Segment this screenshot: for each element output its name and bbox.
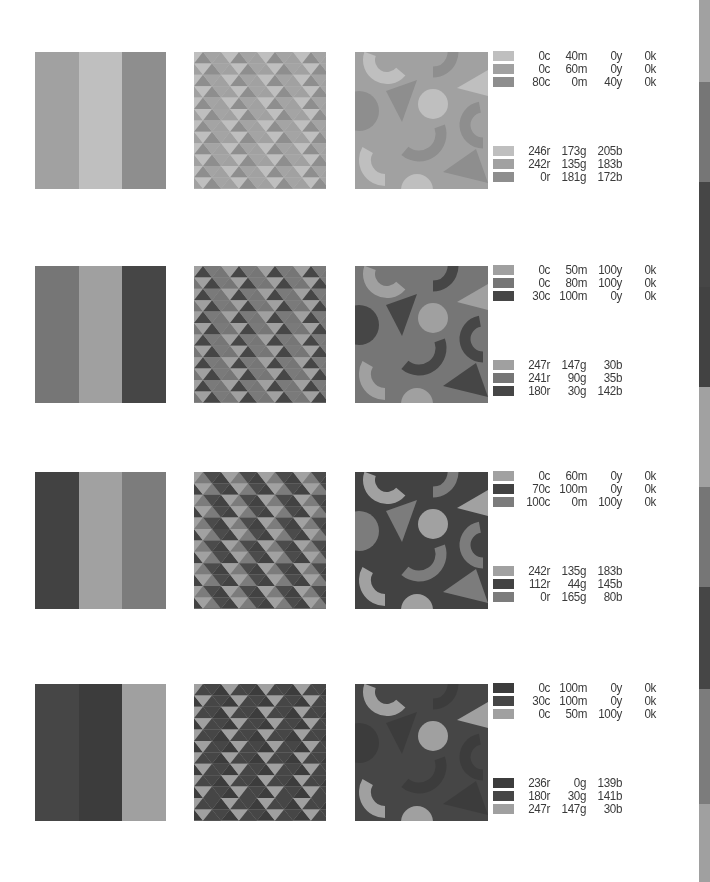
- rgb-legend-row: 180r30g142b: [493, 384, 683, 397]
- color-chip: [493, 291, 514, 301]
- cmyk-value-c: 80c: [522, 75, 550, 88]
- cmyk-legend: 0c100m0y0k30c100m0y0k0c50m100y0k: [493, 681, 683, 720]
- rgb-legend: 247r147g30b241r90g35b180r30g142b: [493, 358, 683, 397]
- cmyk-value-c: 100c: [522, 495, 550, 508]
- rgb-legend-row: 242r135g183b: [493, 564, 683, 577]
- rgb-legend-row: 0r181g172b: [493, 170, 683, 183]
- color-chip: [493, 683, 514, 693]
- rgb-value-g: 165g: [555, 590, 586, 603]
- cmyk-legend-row: 80c0m40y0k: [493, 75, 683, 88]
- color-chip: [493, 566, 514, 576]
- cmyk-legend: 0c50m100y0k0c80m100y0k30c100m0y0k: [493, 263, 683, 302]
- rgb-value-g: 147g: [555, 802, 586, 815]
- rgb-legend-row: 246r173g205b: [493, 144, 683, 157]
- edge-strip-segment: [699, 689, 710, 804]
- shapes-pattern-swatch: [355, 266, 488, 403]
- color-chip: [493, 579, 514, 589]
- color-chip: [493, 51, 514, 61]
- stripe-swatch: [35, 52, 166, 189]
- color-palette-page: 0c40m0y0k0c60m0y0k80c0m40y0k246r173g205b…: [0, 0, 710, 882]
- rgb-legend-row: 0r165g80b: [493, 590, 683, 603]
- rgb-value-b: 172b: [591, 170, 622, 183]
- page-edge-color-strip: [699, 0, 710, 882]
- rgb-legend-row: 180r30g141b: [493, 789, 683, 802]
- rgb-legend: 242r135g183b112r44g145b0r165g80b: [493, 564, 683, 603]
- stripe: [122, 266, 166, 403]
- color-chip: [493, 146, 514, 156]
- color-chip: [493, 360, 514, 370]
- stripe: [79, 266, 123, 403]
- cmyk-legend-row: 30c100m0y0k: [493, 289, 683, 302]
- shapes-pattern-swatch: [355, 684, 488, 821]
- rgb-value-r: 0r: [522, 170, 550, 183]
- stripe: [35, 266, 79, 403]
- cmyk-legend-row: 100c0m100y0k: [493, 495, 683, 508]
- rgb-value-r: 0r: [522, 590, 550, 603]
- rgb-value-b: 30b: [591, 802, 622, 815]
- cmyk-value-c: 0c: [522, 707, 550, 720]
- rgb-value-r: 247r: [522, 802, 550, 815]
- cmyk-value-k: 0k: [627, 75, 656, 88]
- rgb-value-g: 181g: [555, 170, 586, 183]
- edge-strip-segment: [699, 587, 710, 689]
- edge-strip-segment: [699, 804, 710, 882]
- stripe: [35, 52, 79, 189]
- edge-strip-segment: [699, 0, 710, 82]
- stripe: [122, 472, 166, 609]
- rgb-legend: 246r173g205b242r135g183b0r181g172b: [493, 144, 683, 183]
- rgb-value-b: 80b: [591, 590, 622, 603]
- edge-strip-segment: [699, 82, 710, 182]
- color-chip: [493, 804, 514, 814]
- stripe-swatch: [35, 266, 166, 403]
- rgb-value-r: 180r: [522, 384, 550, 397]
- cmyk-value-k: 0k: [627, 289, 656, 302]
- triangle-pattern-swatch: [194, 52, 326, 189]
- rgb-value-g: 30g: [555, 384, 586, 397]
- edge-strip-segment: [699, 287, 710, 387]
- edge-strip-segment: [699, 387, 710, 487]
- stripe: [79, 472, 123, 609]
- stripe: [122, 684, 166, 821]
- triangle-pattern-swatch: [194, 266, 326, 403]
- cmyk-value-m: 50m: [555, 707, 587, 720]
- color-chip: [493, 471, 514, 481]
- stripe-swatch: [35, 684, 166, 821]
- rgb-legend-row: 112r44g145b: [493, 577, 683, 590]
- cmyk-legend: 0c40m0y0k0c60m0y0k80c0m40y0k: [493, 49, 683, 88]
- rgb-legend-row: 247r147g30b: [493, 358, 683, 371]
- cmyk-value-y: 0y: [592, 289, 622, 302]
- cmyk-value-y: 100y: [592, 707, 622, 720]
- cmyk-value-m: 100m: [555, 289, 587, 302]
- rgb-legend-row: 236r0g139b: [493, 776, 683, 789]
- stripe: [35, 684, 79, 821]
- color-chip: [493, 64, 514, 74]
- cmyk-value-k: 0k: [627, 495, 656, 508]
- shapes-pattern-swatch: [355, 52, 488, 189]
- color-chip: [493, 172, 514, 182]
- color-chip: [493, 696, 514, 706]
- rgb-legend-row: 247r147g30b: [493, 802, 683, 815]
- rgb-legend-row: 241r90g35b: [493, 371, 683, 384]
- cmyk-value-m: 0m: [555, 495, 587, 508]
- stripe: [35, 472, 79, 609]
- color-chip: [493, 159, 514, 169]
- color-chip: [493, 484, 514, 494]
- triangle-pattern-swatch: [194, 684, 326, 821]
- cmyk-legend-row: 0c50m100y0k: [493, 707, 683, 720]
- palette-row: 0c100m0y0k30c100m0y0k0c50m100y0k236r0g13…: [0, 684, 690, 824]
- color-chip: [493, 592, 514, 602]
- color-chip: [493, 709, 514, 719]
- triangle-pattern-swatch: [194, 472, 326, 609]
- cmyk-value-y: 40y: [592, 75, 622, 88]
- cmyk-value-m: 0m: [555, 75, 587, 88]
- cmyk-value-c: 30c: [522, 289, 550, 302]
- palette-row: 0c40m0y0k0c60m0y0k80c0m40y0k246r173g205b…: [0, 52, 690, 192]
- palette-row: 0c50m100y0k0c80m100y0k30c100m0y0k247r147…: [0, 266, 690, 406]
- rgb-legend: 236r0g139b180r30g141b247r147g30b: [493, 776, 683, 815]
- stripe: [79, 52, 123, 189]
- palette-row: 0c60m0y0k70c100m0y0k100c0m100y0k242r135g…: [0, 472, 690, 612]
- color-chip: [493, 265, 514, 275]
- color-chip: [493, 791, 514, 801]
- stripe: [122, 52, 166, 189]
- color-chip: [493, 778, 514, 788]
